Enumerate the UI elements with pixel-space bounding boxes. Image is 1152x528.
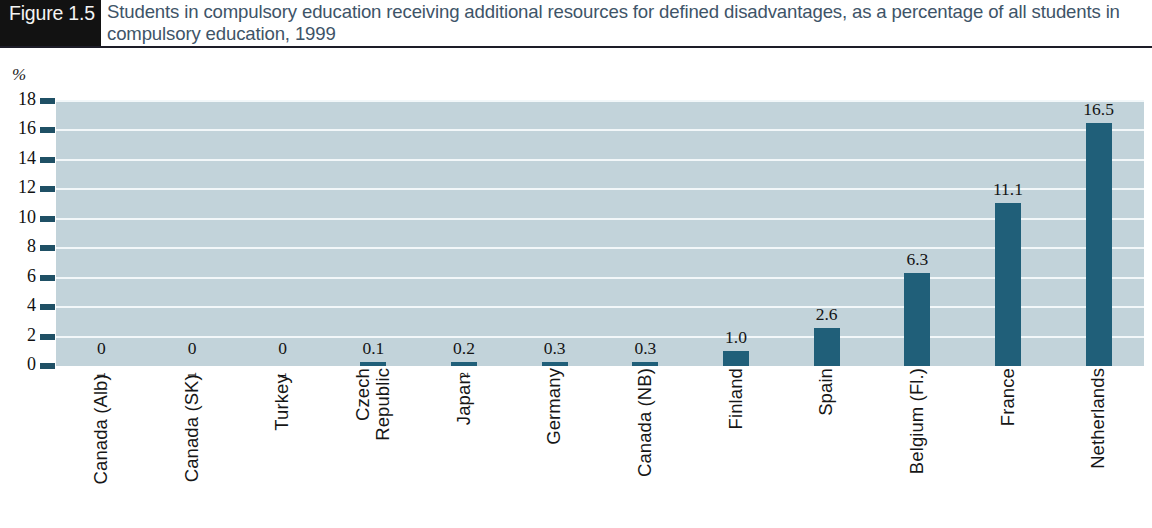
bar-value-label: 2.6 bbox=[787, 304, 867, 325]
category-label-text: Netherlands bbox=[1089, 368, 1108, 469]
y-axis-tick bbox=[40, 216, 55, 222]
y-axis-tick-label: 14 bbox=[6, 148, 36, 169]
x-axis-category-label: Canada (NB) bbox=[600, 368, 691, 528]
x-axis-category-label: Turkey1 bbox=[237, 368, 328, 528]
y-axis-tick-label: 16 bbox=[6, 118, 36, 139]
bar bbox=[723, 351, 749, 366]
y-axis-tick-label: 0 bbox=[6, 354, 36, 375]
bar-value-label: 6.3 bbox=[877, 249, 957, 270]
y-axis: 024681012141618 bbox=[0, 48, 36, 528]
category-label-text: Spain bbox=[817, 368, 836, 416]
y-axis-tick bbox=[40, 304, 55, 310]
y-axis-tick bbox=[40, 186, 55, 192]
x-axis-category-label: Japan2 bbox=[419, 368, 510, 528]
category-label-text: Belgium (Fl.) bbox=[908, 368, 927, 474]
y-axis-tick bbox=[40, 127, 55, 133]
y-axis-tick-label: 18 bbox=[6, 89, 36, 110]
y-axis-tick-label: 10 bbox=[6, 207, 36, 228]
x-axis-category-label: Canada (SK)1 bbox=[147, 368, 238, 528]
bar bbox=[814, 328, 840, 366]
bar bbox=[1086, 123, 1112, 366]
bars-layer bbox=[56, 101, 1144, 366]
bar bbox=[995, 203, 1021, 366]
x-axis-category-label: Canada (Alb)1 bbox=[56, 368, 147, 528]
bar-value-label: 16.5 bbox=[1059, 99, 1139, 120]
y-axis-tick bbox=[40, 157, 55, 163]
category-label-text: Czech bbox=[354, 368, 373, 421]
x-axis-category-label: Netherlands bbox=[1053, 368, 1144, 528]
category-label-text: Finland bbox=[727, 368, 746, 429]
y-axis-tick-label: 6 bbox=[6, 266, 36, 287]
bar bbox=[904, 273, 930, 366]
category-label-text: Canada (Alb)1 bbox=[92, 368, 111, 484]
x-axis-category-label: CzechRepublic bbox=[328, 368, 419, 528]
figure-title: Students in compulsory education receivi… bbox=[107, 1, 1147, 45]
category-label-text: Canada (SK)1 bbox=[183, 368, 202, 482]
footnote-marker: 2 bbox=[458, 372, 470, 378]
y-axis-tick-label: 4 bbox=[6, 295, 36, 316]
bar-value-label: 0.3 bbox=[515, 338, 595, 359]
x-axis-category-label: Spain bbox=[781, 368, 872, 528]
bar-value-label: 1.0 bbox=[696, 327, 776, 348]
bar-value-label: 0 bbox=[61, 338, 141, 359]
y-axis-tick bbox=[40, 363, 55, 369]
y-axis-tick bbox=[40, 98, 55, 104]
bar-value-label: 0.2 bbox=[424, 338, 504, 359]
category-label-text: Japan2 bbox=[455, 368, 474, 425]
bar-value-label: 11.1 bbox=[968, 179, 1048, 200]
footnote-marker: 1 bbox=[276, 372, 288, 378]
bar bbox=[451, 362, 477, 366]
y-axis-tick-label: 2 bbox=[6, 325, 36, 346]
y-axis-tick-label: 12 bbox=[6, 177, 36, 198]
bar bbox=[542, 362, 568, 366]
x-axis-category-labels: Canada (Alb)1Canada (SK)1Turkey1CzechRep… bbox=[56, 368, 1144, 528]
footnote-marker: 1 bbox=[186, 372, 198, 378]
category-label-text: Germany bbox=[545, 368, 564, 445]
y-axis-tick bbox=[40, 275, 55, 281]
bar-value-label: 0.3 bbox=[605, 338, 685, 359]
bar bbox=[360, 362, 386, 366]
x-axis-category-label: Finland bbox=[691, 368, 782, 528]
figure-header: Figure 1.5 Students in compulsory educat… bbox=[0, 0, 1152, 46]
x-axis-category-label: France bbox=[963, 368, 1054, 528]
y-axis-tick bbox=[40, 245, 55, 251]
category-label-text: France bbox=[999, 368, 1018, 426]
category-label-text: Canada (NB) bbox=[636, 368, 655, 477]
bar-value-label: 0.1 bbox=[333, 338, 413, 359]
y-axis-tick-label: 8 bbox=[6, 236, 36, 257]
footnote-marker: 1 bbox=[95, 372, 107, 378]
x-axis-category-label: Germany bbox=[509, 368, 600, 528]
figure-number-badge: Figure 1.5 bbox=[0, 0, 101, 46]
bar-value-label: 0 bbox=[243, 338, 323, 359]
x-axis-category-label: Belgium (Fl.) bbox=[872, 368, 963, 528]
category-label-text: Republic bbox=[374, 368, 393, 441]
bar bbox=[632, 362, 658, 366]
category-label-text: Turkey1 bbox=[273, 368, 292, 431]
chart-area: % 024681012141618 Canada (Alb)1Canada (S… bbox=[0, 48, 1152, 528]
figure-number-label: Figure 1.5 bbox=[9, 2, 95, 25]
y-axis-tick bbox=[40, 334, 55, 340]
bar-value-label: 0 bbox=[152, 338, 232, 359]
